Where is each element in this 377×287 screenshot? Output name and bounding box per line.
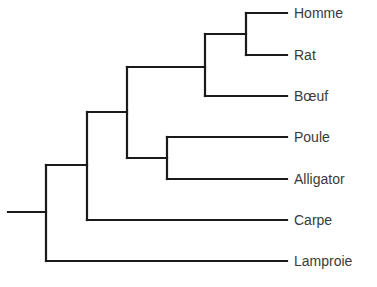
taxon-label-carpe: Carpe [294, 212, 332, 228]
taxon-labels: Homme Rat Bœuf Poule Alligator Carpe Lam… [294, 5, 353, 269]
taxon-label-poule: Poule [294, 129, 330, 145]
tree-branches [8, 13, 287, 261]
phylogenetic-tree: Homme Rat Bœuf Poule Alligator Carpe Lam… [0, 0, 377, 287]
taxon-label-rat: Rat [294, 47, 316, 63]
taxon-label-boeuf: Bœuf [294, 88, 328, 104]
taxon-label-homme: Homme [294, 5, 343, 21]
taxon-label-lamproie: Lamproie [294, 253, 353, 269]
taxon-label-alligator: Alligator [294, 171, 345, 187]
